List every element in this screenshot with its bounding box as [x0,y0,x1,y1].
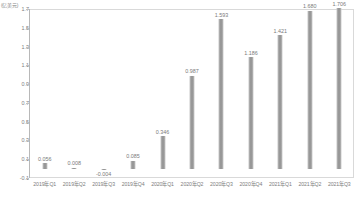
bar-value-label: -0.004 [96,171,111,178]
y-axis-tick-mark [26,159,29,160]
x-axis-tick-label: 2020年Q2 [181,180,204,188]
y-axis-tick-mark [26,84,29,85]
bar-group[interactable]: 0.056 [30,9,59,178]
y-axis-tick-mark [26,122,29,123]
y-axis-tick-mark [26,9,29,10]
bar-group[interactable]: 0.085 [118,9,147,178]
bar-value-label: 0.346 [156,129,170,136]
x-axis-tick-label: 2019年Q3 [92,180,115,188]
bar-value-label: 0.056 [38,156,52,163]
y-axis-tick-mark [26,65,29,66]
bar[interactable] [160,136,165,168]
bar[interactable] [307,11,312,169]
x-axis-tick-label: 2021年Q3 [328,180,351,188]
bar-group[interactable]: 0.987 [177,9,206,178]
x-axis-labels: 2019年Q12019年Q22019年Q32019年Q42020年Q12020年… [30,180,354,192]
y-axis-tick-mark [26,47,29,48]
bar-group[interactable]: 0.008 [59,9,88,178]
bar-group[interactable]: 1.706 [325,9,354,178]
x-axis-tick-label: 2021年Q1 [269,180,292,188]
bar-value-label: 0.008 [67,160,81,167]
bar[interactable] [72,168,77,170]
bar-value-label: 1.593 [215,12,229,19]
bar-value-label: 1.680 [303,3,317,10]
x-axis-tick-label: 2021年Q2 [298,180,321,188]
bar-group[interactable]: 0.346 [148,9,177,178]
bar-chart: (亿美元) 1.71.51.31.10.90.70.50.30.1-0.1 0.… [0,0,357,199]
bar-group[interactable]: -0.004 [89,9,118,178]
x-axis-tick-label: 2019年Q2 [63,180,86,188]
bar[interactable] [248,57,253,168]
bar-value-label: 1.186 [244,50,258,57]
bar[interactable] [278,35,283,168]
x-axis-tick-label: 2020年Q4 [240,180,263,188]
bars-layer: 0.0560.008-0.0040.0850.3460.9871.5931.18… [30,9,354,178]
y-axis-tick-mark [26,178,29,179]
y-axis-tick-mark [26,140,29,141]
y-axis-tick-mark [26,103,29,104]
bar-group[interactable]: 1.593 [207,9,236,178]
bar[interactable] [42,163,47,168]
x-axis-tick-label: 2019年Q4 [122,180,145,188]
bar-value-label: 0.987 [185,68,199,75]
bar[interactable] [337,8,342,168]
bar-value-label: 1.421 [274,28,288,35]
x-axis-tick-label: 2019年Q1 [33,180,56,188]
bar[interactable] [189,76,194,169]
bar[interactable] [219,19,224,169]
bar-group[interactable]: 1.680 [295,9,324,178]
bar[interactable] [131,161,136,169]
x-axis-tick-label: 2020年Q3 [210,180,233,188]
bar-value-label: 0.085 [126,153,140,160]
bar-value-label: 1.706 [333,1,347,8]
bar-group[interactable]: 1.186 [236,9,265,178]
bar-group[interactable]: 1.421 [266,9,295,178]
y-axis-tick-mark [26,28,29,29]
x-axis-tick-label: 2020年Q1 [151,180,174,188]
